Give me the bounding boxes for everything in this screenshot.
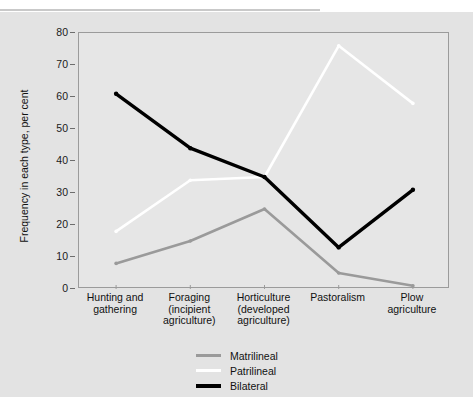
data-point — [189, 239, 193, 243]
legend-label: Bilateral — [230, 380, 268, 392]
legend-swatch — [196, 384, 221, 388]
data-point — [262, 175, 266, 179]
legend-item: Bilateral — [0, 378, 473, 393]
chart-figure: Frequency in each type, per cent 0102030… — [0, 12, 473, 397]
data-point — [263, 207, 267, 211]
plot-area — [78, 32, 449, 288]
series-line-bilateral — [116, 94, 413, 248]
page-top-rule — [0, 9, 320, 11]
data-point — [114, 230, 118, 234]
data-point — [188, 146, 192, 150]
legend-swatch — [196, 354, 221, 357]
legend: MatrilinealPatrilinealBilateral — [0, 348, 473, 393]
figure-page: Frequency in each type, per cent 0102030… — [0, 0, 473, 397]
legend-item: Patrilineal — [0, 363, 473, 378]
y-tick-mark — [70, 128, 75, 129]
y-tick-label: 10 — [56, 250, 68, 262]
y-tick-mark — [70, 256, 75, 257]
y-tick-mark — [70, 224, 75, 225]
x-tick-label-line: agriculture — [360, 304, 464, 316]
data-point — [189, 178, 193, 182]
data-point — [114, 262, 118, 266]
y-tick-label: 50 — [56, 122, 68, 134]
data-point — [337, 245, 341, 249]
data-point — [411, 188, 415, 192]
x-axis: Hunting andgatheringForaging(incipientag… — [78, 292, 449, 344]
x-tick-label-line: agriculture) — [212, 315, 316, 327]
legend-item: Matrilineal — [0, 348, 473, 363]
y-tick-label: 20 — [56, 218, 68, 230]
data-point — [411, 102, 415, 106]
data-point — [337, 271, 341, 275]
x-tick-label-line: Plow — [360, 292, 464, 304]
y-tick-mark — [70, 160, 75, 161]
legend-swatch — [196, 369, 221, 372]
legend-label: Matrilineal — [230, 350, 278, 362]
y-tick-label: 30 — [56, 186, 68, 198]
y-tick-label: 70 — [56, 58, 68, 70]
y-tick-label: 60 — [56, 90, 68, 102]
series-line-patrilineal — [116, 46, 413, 232]
x-tick-label: Plowagriculture — [360, 292, 464, 315]
y-tick-label: 40 — [56, 154, 68, 166]
y-tick-mark — [70, 64, 75, 65]
y-tick-mark — [70, 192, 75, 193]
data-point — [114, 92, 118, 96]
series-lines — [79, 33, 450, 289]
series-line-matrilineal — [116, 209, 413, 286]
y-tick-label: 80 — [56, 26, 68, 38]
y-axis: 01020304050607080 — [0, 32, 78, 288]
data-point — [337, 44, 341, 48]
y-tick-mark — [70, 288, 75, 289]
y-tick-mark — [70, 32, 75, 33]
y-tick-mark — [70, 96, 75, 97]
legend-label: Patrilineal — [230, 365, 276, 377]
